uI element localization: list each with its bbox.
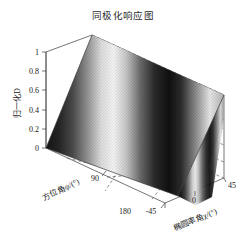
z-axis bbox=[42, 52, 46, 148]
chart-root: 同极化响应图 bbox=[0, 0, 246, 245]
z-tick-label: 0.4 bbox=[29, 106, 39, 115]
z-tick-label: 1 bbox=[35, 48, 39, 57]
z-axis-title: 归一化D bbox=[12, 88, 22, 118]
x-axis-title: 椭圆率角χ/(°) bbox=[172, 206, 219, 233]
z-tick-label: 0.6 bbox=[29, 86, 39, 95]
z-tick-label: 0.2 bbox=[29, 125, 39, 134]
x-tick-label: 45 bbox=[228, 181, 236, 190]
y-tick-label: 90 bbox=[91, 174, 99, 183]
y-tick-label: 180 bbox=[119, 207, 131, 216]
x-tick-label: 0 bbox=[192, 196, 196, 205]
x-tick-label: -45 bbox=[146, 207, 157, 216]
surface-plot-canvas: 1 0.8 0.6 0.4 0.2 0 归一化D 90 180 方位角ψ/(°)… bbox=[0, 0, 246, 245]
y-axis-title: 方位角ψ/(°) bbox=[41, 176, 81, 203]
z-tick-label: 0.8 bbox=[29, 67, 39, 76]
z-tick-label: 0 bbox=[35, 144, 39, 153]
